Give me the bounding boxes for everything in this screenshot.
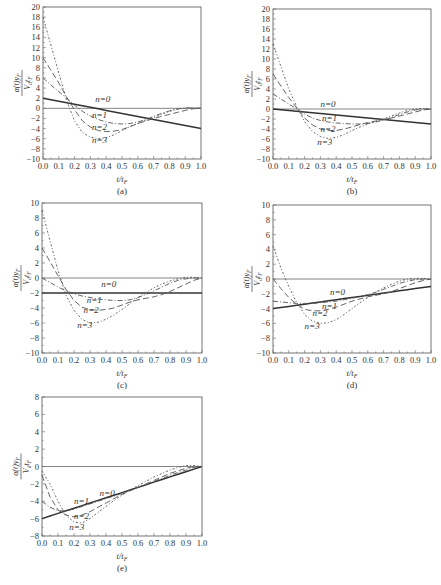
x-tick-label: 0.2 bbox=[299, 161, 310, 171]
x-tick-label: 0.2 bbox=[299, 355, 310, 365]
y-tick-label: 2 bbox=[266, 259, 270, 269]
y-tick-label: 16 bbox=[32, 22, 41, 32]
x-tick-label: 0.4 bbox=[101, 538, 112, 548]
y-tick-label: −6 bbox=[261, 318, 270, 328]
x-tick-label: 0.2 bbox=[69, 355, 80, 365]
x-tick-label: 0.0 bbox=[37, 538, 48, 548]
y-tick-label: −6 bbox=[30, 318, 39, 328]
curve-label: n=2 bbox=[74, 511, 90, 521]
y-tick-label: 8 bbox=[266, 64, 270, 74]
curve-label: n=0 bbox=[320, 99, 336, 109]
curve-n-3 bbox=[273, 44, 431, 139]
x-axis-label: t/tF bbox=[347, 174, 358, 185]
x-tick-label: 0.5 bbox=[117, 161, 128, 171]
x-tick-label: 0.1 bbox=[53, 355, 64, 365]
curve-label: n=0 bbox=[95, 94, 111, 104]
curve-label: n=2 bbox=[320, 124, 336, 134]
x-tick-label: 0.6 bbox=[362, 161, 373, 171]
y-tick-label: 0 bbox=[35, 273, 39, 283]
x-tick-label: 0.1 bbox=[283, 355, 294, 365]
y-tick-label: 20 bbox=[32, 2, 41, 12]
x-tick-label: 0.4 bbox=[101, 355, 112, 365]
x-tick-label: 0.8 bbox=[164, 161, 175, 171]
y-tick-label: −4 bbox=[261, 304, 271, 314]
x-tick-label: 0.0 bbox=[38, 161, 49, 171]
x-tick-label: 0.7 bbox=[378, 355, 389, 365]
y-tick-label: 0 bbox=[36, 103, 40, 113]
x-tick-label: 1.0 bbox=[197, 538, 208, 548]
svg-text:α(t)yF: α(t)yF bbox=[11, 457, 21, 476]
x-tick-label: 0.0 bbox=[268, 161, 279, 171]
y-tick-label: −4 bbox=[31, 124, 41, 134]
y-tick-label: −6 bbox=[261, 134, 270, 144]
x-tick-label: 0.8 bbox=[394, 161, 405, 171]
y-tick-label: 4 bbox=[266, 244, 271, 254]
panel-d: 1086420−2−4−6−8−100.00.10.20.30.40.50.60… bbox=[242, 200, 436, 390]
x-tick-label: 0.8 bbox=[165, 538, 176, 548]
curve-n-3 bbox=[273, 246, 431, 324]
y-tick-label: −2 bbox=[31, 113, 40, 123]
y-tick-label: 6 bbox=[266, 74, 270, 84]
y-tick-label: 4 bbox=[266, 84, 271, 94]
figure: 20181614121086420−2−4−6−8−100.00.10.20.3… bbox=[0, 0, 441, 585]
svg-text:VdtF: VdtF bbox=[253, 272, 263, 286]
x-tick-label: 0.5 bbox=[117, 355, 128, 365]
y-tick-label: −2 bbox=[261, 289, 270, 299]
x-tick-label: 0.9 bbox=[180, 161, 191, 171]
curve-n-1 bbox=[43, 78, 201, 124]
curve-n-0 bbox=[273, 286, 431, 308]
curve-n-1 bbox=[273, 279, 431, 303]
x-tick-label: 0.5 bbox=[347, 161, 358, 171]
x-tick-label: 0.3 bbox=[315, 161, 326, 171]
curve-n-2 bbox=[43, 58, 201, 132]
y-tick-label: −2 bbox=[30, 479, 39, 489]
y-tick-label: 0 bbox=[35, 462, 39, 472]
plot-frame bbox=[43, 7, 201, 159]
curve-n-3 bbox=[42, 211, 202, 324]
panel-label: (c) bbox=[117, 380, 127, 390]
x-tick-label: 0.1 bbox=[53, 538, 64, 548]
curve-label: n=3 bbox=[77, 320, 93, 330]
y-tick-label: −4 bbox=[30, 496, 40, 506]
y-tick-label: 8 bbox=[35, 213, 39, 223]
y-tick-label: 6 bbox=[35, 228, 39, 238]
x-tick-label: 1.0 bbox=[426, 161, 437, 171]
curve-label: n=3 bbox=[69, 522, 85, 532]
y-tick-label: −6 bbox=[30, 514, 39, 524]
curve-label: n=0 bbox=[330, 287, 346, 297]
y-tick-label: 10 bbox=[31, 198, 40, 208]
x-axis-label: t/tF bbox=[117, 368, 128, 379]
y-tick-label: 2 bbox=[35, 258, 39, 268]
y-axis-label: α(t)yFVdtF bbox=[242, 266, 263, 292]
y-tick-label: 10 bbox=[32, 53, 41, 63]
svg-text:VdtF: VdtF bbox=[253, 77, 263, 91]
x-tick-label: 0.7 bbox=[148, 161, 159, 171]
x-tick-label: 0.7 bbox=[378, 161, 389, 171]
x-tick-label: 0.2 bbox=[69, 161, 80, 171]
y-tick-label: 12 bbox=[262, 44, 271, 54]
svg-text:VdtF: VdtF bbox=[22, 459, 32, 473]
x-tick-label: 0.7 bbox=[149, 355, 160, 365]
curve-label: n=2 bbox=[84, 305, 100, 315]
y-tick-label: 12 bbox=[32, 43, 41, 53]
curve-label: n=3 bbox=[92, 135, 108, 145]
x-tick-label: 0.5 bbox=[347, 355, 358, 365]
panel-e: 86420−2−4−6−80.00.10.20.30.40.50.60.70.8… bbox=[11, 392, 207, 573]
svg-text:α(t)yF: α(t)yF bbox=[11, 268, 21, 287]
y-tick-label: 4 bbox=[36, 83, 41, 93]
x-tick-label: 0.5 bbox=[117, 538, 128, 548]
y-tick-label: 20 bbox=[262, 4, 271, 14]
y-axis-label: α(t)yFVdtF bbox=[12, 70, 33, 96]
y-axis-label: α(t)yFVdtF bbox=[242, 71, 263, 97]
curve-label: n=0 bbox=[101, 279, 117, 289]
curve-label: n=1 bbox=[92, 110, 107, 120]
curve-n-1 bbox=[42, 467, 202, 511]
y-tick-label: 2 bbox=[266, 94, 270, 104]
x-tick-label: 0.6 bbox=[362, 355, 373, 365]
x-tick-label: 0.6 bbox=[133, 355, 144, 365]
curve-n-3 bbox=[43, 17, 201, 139]
x-tick-label: 0.9 bbox=[410, 161, 421, 171]
y-tick-label: 18 bbox=[32, 12, 41, 22]
x-tick-label: 0.2 bbox=[69, 538, 80, 548]
y-tick-label: −4 bbox=[261, 124, 271, 134]
